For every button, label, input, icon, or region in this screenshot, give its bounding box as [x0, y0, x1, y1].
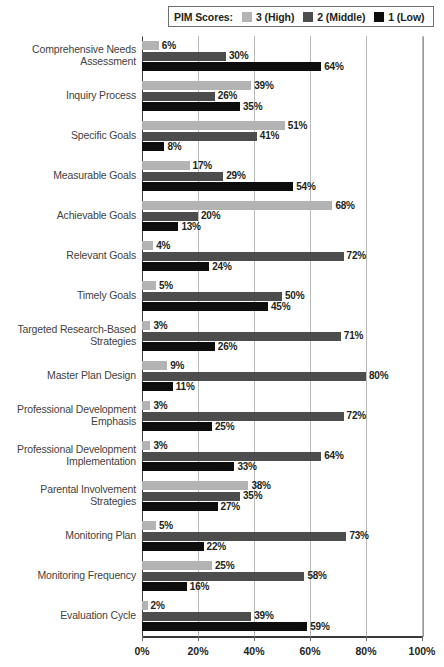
bar-value-label: 11% — [176, 381, 195, 392]
legend-swatch-low — [374, 12, 384, 22]
bar-value-label: 64% — [324, 61, 343, 72]
bar-value-label: 16% — [190, 581, 209, 592]
bar — [142, 241, 153, 250]
category-label: Targeted Research-Based Strategies — [2, 323, 136, 348]
bar-value-label: 39% — [254, 610, 273, 621]
category-label: Timely Goals — [2, 289, 136, 302]
category-label: Inquiry Process — [2, 89, 136, 102]
bar-value-label: 45% — [271, 301, 290, 312]
bar-value-label: 9% — [170, 360, 184, 371]
bar — [142, 622, 307, 631]
bar-value-label: 38% — [251, 480, 270, 491]
bar — [142, 502, 218, 511]
bar-value-label: 30% — [229, 50, 248, 61]
bar-value-label: 59% — [310, 621, 329, 632]
bar — [142, 521, 156, 530]
x-tick-label-100: 100% — [409, 645, 436, 657]
bar-value-label: 25% — [215, 560, 234, 571]
bar — [142, 452, 321, 461]
bar-value-label: 2% — [151, 600, 165, 611]
bar — [142, 302, 268, 311]
bar — [142, 532, 346, 541]
bar — [142, 121, 285, 130]
bar-value-label: 72% — [347, 410, 366, 421]
legend-item-middle: 2 (Middle) — [303, 11, 365, 23]
bar — [142, 41, 159, 50]
bar — [142, 382, 173, 391]
bar — [142, 492, 240, 501]
bar-value-label: 68% — [335, 200, 354, 211]
bar — [142, 342, 215, 351]
legend-title: PIM Scores: — [174, 11, 233, 23]
bar-value-label: 5% — [159, 280, 173, 291]
bar — [142, 372, 366, 381]
x-tick-40 — [254, 636, 255, 641]
bar — [142, 81, 251, 90]
bar — [142, 132, 257, 141]
bar-value-label: 80% — [369, 370, 388, 381]
bar — [142, 321, 150, 330]
x-tick-label-60: 60% — [299, 645, 320, 657]
x-tick-label-20: 20% — [187, 645, 208, 657]
category-label: Monitoring Plan — [2, 529, 136, 542]
bar-value-label: 58% — [307, 570, 326, 581]
bar-value-label: 5% — [159, 520, 173, 531]
bar-value-label: 35% — [243, 490, 262, 501]
x-axis-line — [142, 636, 423, 638]
bar — [142, 582, 187, 591]
bar-value-label: 26% — [218, 90, 237, 101]
legend-label-high: 3 (High) — [256, 11, 294, 23]
bar-value-label: 6% — [162, 40, 176, 51]
category-label: Specific Goals — [2, 129, 136, 142]
bar-value-label: 22% — [207, 541, 226, 552]
bar-value-label: 4% — [156, 240, 170, 251]
x-tick-60 — [310, 636, 311, 641]
bar-value-label: 3% — [153, 400, 167, 411]
x-tick-label-80: 80% — [355, 645, 376, 657]
x-tick-20 — [198, 636, 199, 641]
category-label: Monitoring Frequency — [2, 569, 136, 582]
bar — [142, 281, 156, 290]
bar — [142, 292, 282, 301]
bar-value-label: 35% — [243, 101, 262, 112]
legend-item-high: 3 (High) — [242, 11, 294, 23]
category-label: Parental Involvement Strategies — [2, 483, 136, 508]
bar — [142, 612, 251, 621]
bar — [142, 172, 223, 181]
bar-value-label: 8% — [167, 141, 181, 152]
bar-value-label: 54% — [296, 181, 315, 192]
bar — [142, 401, 150, 410]
bar-value-label: 29% — [226, 170, 245, 181]
x-tick-80 — [366, 636, 367, 641]
legend-label-middle: 2 (Middle) — [317, 11, 365, 23]
legend-swatch-middle — [303, 12, 313, 22]
bar-value-label: 24% — [212, 261, 231, 272]
gridline-100 — [422, 36, 423, 636]
bar — [142, 92, 215, 101]
bar-value-label: 26% — [218, 341, 237, 352]
bar-value-label: 27% — [221, 501, 240, 512]
bar — [142, 182, 293, 191]
x-tick-label-40: 40% — [243, 645, 264, 657]
bar — [142, 62, 321, 71]
bar-value-label: 3% — [153, 440, 167, 451]
bar — [142, 481, 248, 490]
x-tick-label-0: 0% — [134, 645, 149, 657]
bar — [142, 601, 148, 610]
bar-value-label: 13% — [181, 221, 200, 232]
bar-value-label: 17% — [193, 160, 212, 171]
bar — [142, 422, 212, 431]
bar — [142, 462, 234, 471]
bar — [142, 201, 332, 210]
bar — [142, 542, 204, 551]
bar-value-label: 71% — [344, 330, 363, 341]
x-tick-100 — [422, 636, 423, 641]
bar — [142, 361, 167, 370]
category-label: Evaluation Cycle — [2, 609, 136, 622]
bar-value-label: 73% — [349, 530, 368, 541]
category-label: Master Plan Design — [2, 369, 136, 382]
category-label: Achievable Goals — [2, 209, 136, 222]
bar — [142, 412, 344, 421]
pim-scores-bar-chart: PIM Scores: 3 (High) 2 (Middle) 1 (Low) … — [0, 0, 444, 667]
bar-value-label: 20% — [201, 210, 220, 221]
